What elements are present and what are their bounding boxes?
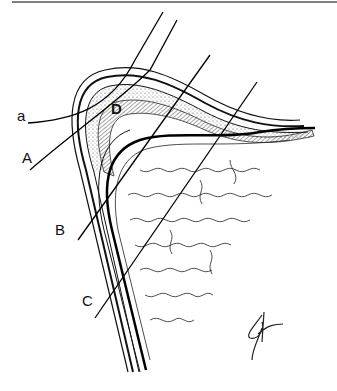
signature-icon — [249, 312, 283, 360]
inner-dark-band — [107, 128, 315, 370]
label-A: A — [22, 150, 32, 165]
label-C: C — [82, 293, 93, 308]
label-B: B — [55, 222, 65, 237]
leader-lines — [28, 12, 257, 318]
hatched-layer — [98, 100, 314, 176]
anatomical-diagram — [0, 0, 337, 391]
label-D: D — [111, 101, 122, 116]
label-a: a — [17, 108, 25, 123]
